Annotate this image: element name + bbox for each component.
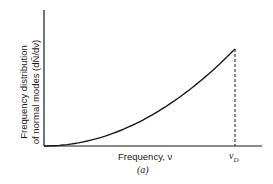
y-axis-label: Frequency distribution of normal modes (… <box>18 12 42 172</box>
distribution-curve <box>44 49 235 146</box>
x-axis-label: Frequency, ν <box>118 151 172 162</box>
debye-frequency-tick-label: νD <box>229 150 239 164</box>
figure-sublabel: (a) <box>137 164 149 175</box>
